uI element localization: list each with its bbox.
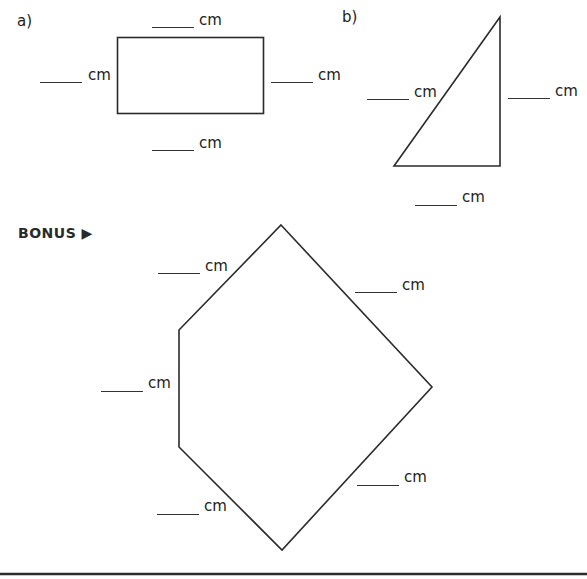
blank-p-left[interactable] xyxy=(101,391,143,392)
blank-a-right[interactable] xyxy=(271,82,313,83)
blank-p-upper-left[interactable] xyxy=(158,273,200,274)
unit-a-bottom: cm xyxy=(199,134,222,152)
unit-b-bottom: cm xyxy=(462,188,485,206)
blank-a-top[interactable] xyxy=(152,27,194,28)
blank-p-lower-left[interactable] xyxy=(157,514,199,515)
unit-p-upper-left: cm xyxy=(205,257,228,275)
unit-b-right: cm xyxy=(555,82,578,100)
unit-a-right: cm xyxy=(318,66,341,84)
rectangle-shape xyxy=(118,38,264,114)
blank-a-left[interactable] xyxy=(40,82,82,83)
blank-a-bottom[interactable] xyxy=(152,150,194,151)
unit-a-top: cm xyxy=(199,11,222,29)
unit-p-upper-right: cm xyxy=(402,276,425,294)
blank-b-right[interactable] xyxy=(508,98,550,99)
label-a: a) xyxy=(17,12,32,30)
triangle-shape xyxy=(394,17,500,166)
label-bonus: BONUS ▶ xyxy=(18,225,93,241)
unit-a-left: cm xyxy=(88,66,111,84)
unit-p-lower-right: cm xyxy=(404,468,427,486)
shapes-canvas xyxy=(0,0,587,579)
unit-p-lower-left: cm xyxy=(204,497,227,515)
blank-b-bottom[interactable] xyxy=(415,205,457,206)
label-b: b) xyxy=(342,8,357,26)
unit-b-hypotenuse: cm xyxy=(414,83,437,101)
unit-p-left: cm xyxy=(148,374,171,392)
blank-b-hypotenuse[interactable] xyxy=(367,99,409,100)
blank-p-upper-right[interactable] xyxy=(355,292,397,293)
blank-p-lower-right[interactable] xyxy=(357,485,399,486)
